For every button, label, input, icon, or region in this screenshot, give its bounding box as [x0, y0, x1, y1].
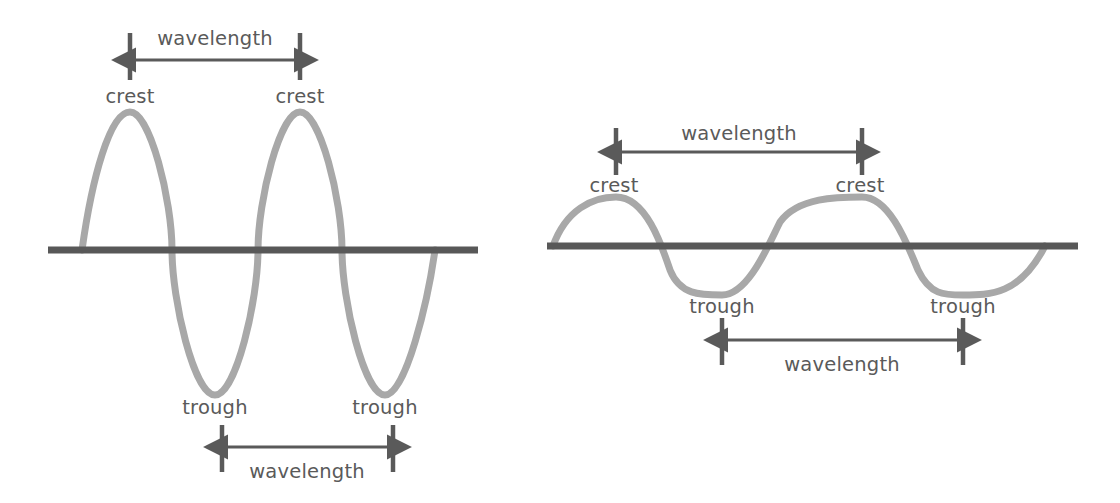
left-trough-label-2: trough: [352, 396, 417, 419]
left-crest-label-1: crest: [105, 85, 154, 108]
left-bottom-wavelength-label: wavelength: [249, 460, 365, 483]
right-wave-panel: wavelength crest crest trough trough wav…: [547, 122, 1078, 376]
left-top-wavelength-measure: wavelength: [130, 27, 300, 80]
right-bottom-wavelength-label: wavelength: [784, 353, 900, 376]
right-trough-label-2: trough: [930, 295, 995, 318]
left-top-wavelength-label: wavelength: [157, 27, 273, 50]
left-crest-label-2: crest: [275, 85, 324, 108]
right-bottom-wavelength-measure: wavelength: [722, 318, 963, 376]
wave-diagram-canvas: wavelength crest crest trough trough wav…: [0, 0, 1120, 503]
right-top-wavelength-label: wavelength: [681, 122, 797, 145]
left-bottom-wavelength-measure: wavelength: [222, 425, 393, 483]
right-top-wavelength-measure: wavelength: [616, 122, 862, 175]
left-wave-panel: wavelength crest crest trough trough wav…: [48, 27, 478, 483]
wave-diagram-figure: wavelength crest crest trough trough wav…: [0, 0, 1120, 503]
left-trough-label-1: trough: [182, 396, 247, 419]
right-trough-label-1: trough: [689, 295, 754, 318]
